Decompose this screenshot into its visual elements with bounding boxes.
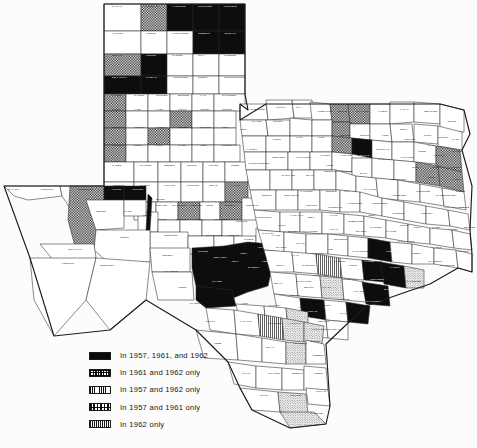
- county-shape[interactable]: [141, 76, 167, 94]
- county-shape[interactable]: [124, 200, 146, 216]
- county-shape[interactable]: [214, 111, 236, 128]
- county-shape[interactable]: [348, 236, 368, 258]
- county-shape[interactable]: [214, 128, 236, 145]
- county-shape[interactable]: [370, 104, 390, 124]
- county-shape[interactable]: [414, 142, 436, 164]
- county-shape[interactable]: [292, 252, 318, 274]
- county-shape[interactable]: [332, 152, 352, 172]
- county-shape[interactable]: [244, 152, 266, 170]
- county-shape[interactable]: [242, 136, 266, 152]
- county-shape[interactable]: [282, 318, 304, 342]
- county-shape[interactable]: [104, 145, 126, 162]
- county-shape[interactable]: [141, 31, 167, 54]
- county-shape[interactable]: [170, 111, 192, 128]
- county-shape[interactable]: [170, 145, 192, 162]
- county-shape[interactable]: [284, 232, 306, 254]
- county-shape[interactable]: [342, 278, 366, 302]
- county-shape[interactable]: [414, 102, 440, 124]
- county-shape[interactable]: [316, 254, 342, 278]
- county-shape[interactable]: [310, 152, 332, 170]
- county-shape[interactable]: [312, 136, 332, 152]
- county-shape[interactable]: [148, 128, 170, 145]
- county-shape[interactable]: [192, 111, 214, 128]
- county-shape[interactable]: [376, 178, 398, 200]
- county-shape[interactable]: [219, 4, 245, 31]
- county-shape[interactable]: [322, 212, 344, 234]
- county-shape[interactable]: [250, 190, 276, 210]
- county-shape[interactable]: [203, 162, 225, 182]
- county-shape[interactable]: [314, 170, 336, 190]
- county-shape[interactable]: [340, 190, 360, 212]
- county-shape[interactable]: [104, 76, 141, 94]
- county-shape[interactable]: [104, 54, 141, 76]
- county-shape[interactable]: [266, 136, 290, 152]
- county-shape[interactable]: [298, 190, 320, 210]
- county-shape[interactable]: [372, 158, 394, 180]
- county-shape[interactable]: [246, 170, 270, 190]
- county-shape[interactable]: [290, 136, 312, 152]
- county-shape[interactable]: [158, 182, 181, 202]
- county-shape[interactable]: [126, 111, 148, 128]
- county-shape[interactable]: [167, 54, 193, 76]
- county-shape[interactable]: [126, 128, 148, 145]
- county-shape[interactable]: [258, 314, 284, 340]
- county-shape[interactable]: [372, 140, 392, 160]
- county-shape[interactable]: [426, 206, 450, 226]
- county-shape[interactable]: [148, 94, 170, 111]
- county-shape[interactable]: [414, 124, 438, 144]
- county-shape[interactable]: [326, 320, 348, 340]
- county-shape[interactable]: [214, 145, 240, 162]
- county-shape[interactable]: [386, 220, 408, 242]
- county-shape[interactable]: [408, 224, 430, 244]
- county-shape[interactable]: [104, 128, 126, 145]
- county-shape[interactable]: [276, 190, 298, 210]
- county-shape[interactable]: [193, 54, 219, 76]
- county-shape[interactable]: [124, 186, 146, 200]
- county-shape[interactable]: [234, 310, 260, 336]
- county-shape[interactable]: [306, 234, 328, 254]
- county-shape[interactable]: [270, 272, 298, 296]
- county-shape[interactable]: [416, 162, 440, 186]
- county-shape[interactable]: [222, 220, 242, 236]
- county-shape[interactable]: [219, 76, 245, 94]
- county-shape[interactable]: [330, 104, 350, 122]
- county-shape[interactable]: [141, 4, 167, 31]
- county-shape[interactable]: [200, 202, 220, 220]
- county-shape[interactable]: [148, 111, 170, 128]
- county-shape[interactable]: [266, 152, 288, 170]
- county-shape[interactable]: [370, 124, 392, 142]
- county-shape[interactable]: [452, 230, 472, 250]
- county-shape[interactable]: [290, 118, 312, 136]
- legend-item[interactable]: In 1957 and 1961 only: [89, 399, 304, 416]
- county-shape[interactable]: [192, 94, 214, 111]
- county-shape[interactable]: [86, 258, 150, 330]
- county-shape[interactable]: [167, 31, 193, 54]
- county-shape[interactable]: [390, 124, 414, 142]
- county-shape[interactable]: [225, 162, 248, 182]
- legend-item[interactable]: In 1957 and 1962 only: [89, 381, 304, 398]
- county-shape[interactable]: [292, 170, 314, 190]
- county-shape[interactable]: [206, 308, 236, 334]
- county-shape[interactable]: [104, 162, 134, 182]
- county-shape[interactable]: [254, 210, 280, 232]
- county-shape[interactable]: [220, 202, 242, 220]
- county-shape[interactable]: [203, 182, 225, 202]
- county-shape[interactable]: [266, 100, 294, 120]
- county-shape[interactable]: [404, 266, 424, 288]
- county-shape[interactable]: [104, 4, 141, 31]
- county-shape[interactable]: [390, 102, 414, 124]
- county-shape[interactable]: [178, 202, 200, 220]
- county-shape[interactable]: [352, 138, 372, 158]
- county-shape[interactable]: [340, 258, 364, 280]
- legend-item[interactable]: In 1961 and 1962 only: [89, 364, 304, 381]
- county-shape[interactable]: [364, 216, 386, 238]
- county-shape[interactable]: [270, 170, 292, 190]
- county-shape[interactable]: [412, 244, 434, 264]
- county-shape[interactable]: [104, 31, 141, 54]
- county-shape[interactable]: [134, 162, 158, 182]
- county-shape[interactable]: [170, 94, 192, 111]
- county-shape[interactable]: [332, 136, 352, 154]
- county-shape[interactable]: [430, 228, 454, 248]
- county-shape[interactable]: [126, 94, 148, 111]
- county-shape[interactable]: [300, 212, 322, 234]
